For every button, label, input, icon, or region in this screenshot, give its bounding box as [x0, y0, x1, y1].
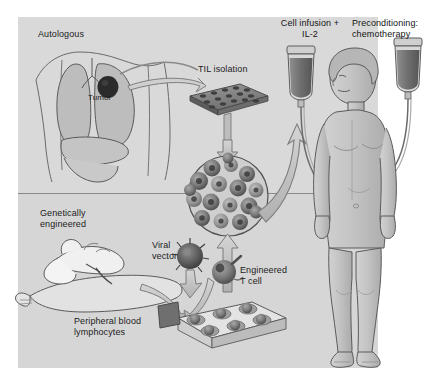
well-plate-icon — [190, 84, 268, 142]
virus-particle-icon — [172, 238, 209, 275]
label-til-isolation: TIL isolation — [198, 64, 248, 75]
label-genetically-engineered: Genetically engineered — [40, 208, 86, 230]
figure-root: Autologous Tumor TIL isolation Cell infu… — [0, 0, 438, 383]
label-viral-vector: Viral vector — [152, 240, 177, 262]
label-engineered-t-cell: Engineered T cell — [240, 265, 287, 287]
label-cell-infusion: Cell infusion + IL-2 — [272, 18, 348, 40]
lungs-icon — [36, 52, 170, 182]
diagram-artwork — [0, 0, 438, 383]
label-preconditioning: Preconditioning: chemotherapy — [352, 18, 438, 40]
label-peripheral-blood-lymphocytes: Peripheral blood lymphocytes — [74, 316, 141, 338]
standing-patient-icon — [314, 48, 397, 367]
curved-arrow-icon — [258, 124, 306, 222]
down-arrow-icon — [180, 270, 202, 298]
label-tumor: Tumor — [88, 92, 111, 103]
label-autologous: Autologous — [38, 29, 84, 40]
curved-arrow-icon — [120, 62, 206, 92]
culture-tray-icon — [158, 302, 286, 348]
cell-culture-circle-icon — [184, 153, 268, 237]
